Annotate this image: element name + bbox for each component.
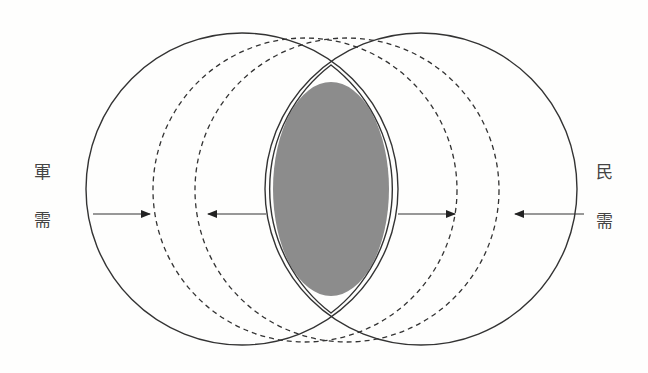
civilian-label-char2: 需: [596, 213, 613, 230]
military-label-char1: 軍: [34, 164, 51, 181]
civilian-label-char1: 民: [596, 164, 613, 181]
venn-diagram: [0, 0, 648, 373]
military-label-char2: 需: [34, 212, 51, 229]
overlap-region: [273, 82, 389, 296]
diagram-canvas: 軍 需 民 需: [0, 0, 648, 373]
